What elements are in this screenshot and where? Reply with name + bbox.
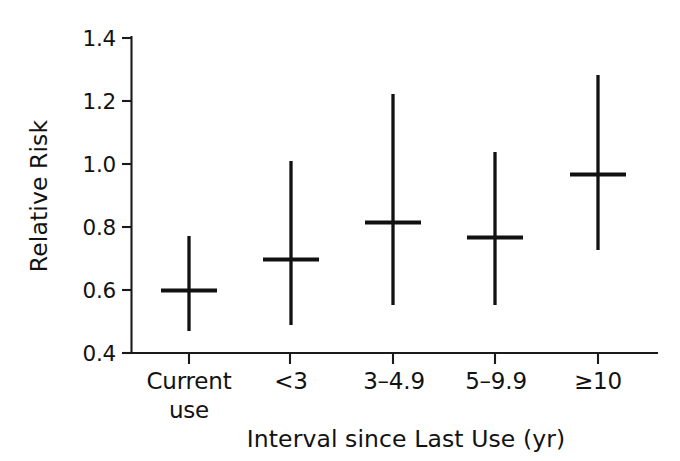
x-tick-label-ge10: ≥10: [574, 368, 622, 394]
y-tick-label-1.2: 1.2: [82, 89, 116, 114]
x-tick-label-3-4.9: 3–4.9: [363, 368, 425, 394]
y-tick-label-1.4: 1.4: [82, 26, 116, 51]
relative-risk-chart: 1.4 1.2 1.0 0.8 0.6 0.4 Current use <3 3…: [0, 0, 680, 461]
data-point-5-9.9: [467, 152, 523, 305]
data-series-relative-risk: [161, 75, 626, 331]
y-tick-label-1.0: 1.0: [82, 152, 116, 177]
x-tick-label-lt3: <3: [274, 368, 308, 394]
chart-canvas: 1.4 1.2 1.0 0.8 0.6 0.4 Current use <3 3…: [0, 0, 680, 461]
data-point-current-use: [161, 236, 217, 331]
x-tick-label-5-9.9: 5–9.9: [465, 368, 527, 394]
x-axis-group: Current use <3 3–4.9 5–9.9 ≥10: [132, 353, 658, 423]
x-tick-label-current-use-line2: use: [169, 397, 209, 423]
data-point-3-4.9: [365, 94, 421, 305]
x-axis-title: Interval since Last Use (yr): [247, 425, 565, 453]
y-tick-label-0.8: 0.8: [82, 215, 116, 240]
y-axis-title: Relative Risk: [25, 120, 53, 273]
data-point-lt3: [263, 161, 319, 325]
x-tick-label-current-use-line1: Current: [147, 368, 232, 394]
y-tick-label-0.4: 0.4: [82, 341, 116, 366]
y-axis-group: 1.4 1.2 1.0 0.8 0.6 0.4: [82, 26, 131, 366]
data-point-ge10: [570, 75, 626, 250]
y-tick-label-0.6: 0.6: [82, 278, 116, 303]
